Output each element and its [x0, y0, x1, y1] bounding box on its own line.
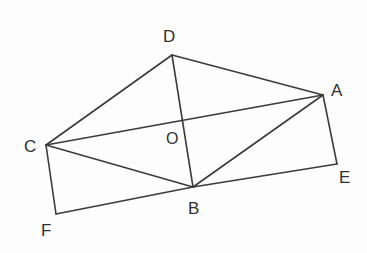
edge-C-F	[46, 145, 56, 214]
vertex-label-E: E	[339, 169, 351, 186]
vertex-label-F: F	[41, 222, 52, 239]
edge-A-B	[193, 95, 323, 187]
edge-A-E	[323, 95, 337, 164]
vertex-label-C: C	[24, 138, 36, 155]
vertex-label-D: D	[163, 28, 175, 45]
edge-group	[46, 55, 337, 214]
edge-C-D	[46, 55, 172, 145]
vertex-label-O: O	[166, 131, 179, 147]
edge-D-A	[172, 55, 323, 95]
geometry-diagram: D A C O B E F	[0, 0, 367, 253]
vertex-label-B: B	[188, 200, 200, 217]
edge-C-B	[46, 145, 193, 187]
diagram-svg-canvas	[0, 0, 367, 253]
vertex-label-A: A	[331, 82, 343, 99]
